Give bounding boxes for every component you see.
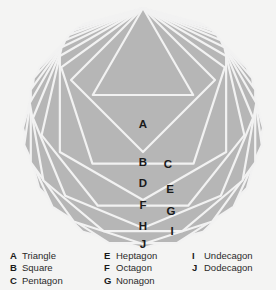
legend-label: Undecagon xyxy=(204,250,253,262)
polygon-diagram-page: ABCDEFGHIJ A Triangle B Square C Pentago… xyxy=(0,0,276,290)
nested-polygons-figure: ABCDEFGHIJ xyxy=(0,0,276,250)
polygon-label-c: C xyxy=(164,158,172,170)
legend-key: I xyxy=(192,250,204,262)
legend-label: Octagon xyxy=(116,262,152,274)
legend-key: G xyxy=(104,275,116,287)
polygon-label-d: D xyxy=(139,177,147,189)
polygon-label-b: B xyxy=(139,156,147,168)
legend-key: F xyxy=(104,262,116,274)
legend-key: E xyxy=(104,250,116,262)
legend-item: G Nonagon xyxy=(104,275,190,287)
legend-key: A xyxy=(10,250,22,262)
legend-key: C xyxy=(10,275,22,287)
legend-label: Square xyxy=(22,262,53,274)
polygon-label-h: H xyxy=(139,220,147,232)
legend-item: I Undecagon xyxy=(192,250,276,262)
polygon-label-a: A xyxy=(139,118,147,130)
legend-item: E Heptagon xyxy=(104,250,190,262)
legend-label: Dodecagon xyxy=(204,262,253,274)
legend-item: F Octagon xyxy=(104,262,190,274)
legend: A Triangle B Square C Pentagon E Heptago… xyxy=(0,250,276,290)
legend-item: C Pentagon xyxy=(10,275,102,287)
polygon-label-e: E xyxy=(166,183,174,195)
legend-label: Nonagon xyxy=(116,275,155,287)
legend-label: Heptagon xyxy=(116,250,157,262)
legend-column-2: E Heptagon F Octagon G Nonagon xyxy=(104,250,190,290)
legend-item: A Triangle xyxy=(10,250,102,262)
legend-label: Pentagon xyxy=(22,275,63,287)
legend-column-3: I Undecagon J Dodecagon xyxy=(192,250,276,290)
polygon-label-g: G xyxy=(167,205,176,217)
legend-key: B xyxy=(10,262,22,274)
legend-item: B Square xyxy=(10,262,102,274)
legend-item: J Dodecagon xyxy=(192,262,276,274)
nested-polygons-svg: ABCDEFGHIJ xyxy=(0,0,276,250)
polygon-label-i: I xyxy=(170,225,173,237)
legend-label: Triangle xyxy=(22,250,56,262)
legend-column-1: A Triangle B Square C Pentagon xyxy=(10,250,102,290)
legend-key: J xyxy=(192,262,204,274)
polygon-label-f: F xyxy=(139,199,146,211)
polygon-label-j: J xyxy=(140,238,146,250)
